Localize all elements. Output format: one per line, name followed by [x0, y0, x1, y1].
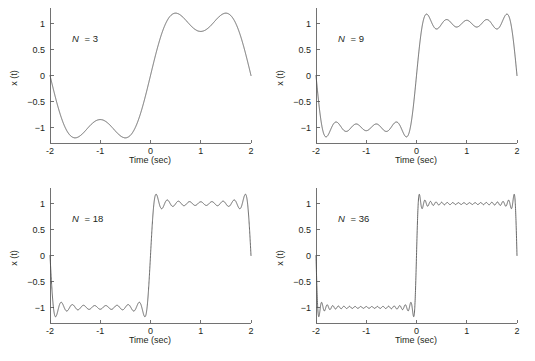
x-tick-label: 2	[248, 326, 253, 336]
y-axis-label-n9: x (t)	[275, 70, 285, 86]
x-tick-label: 1	[464, 146, 469, 156]
x-axis-label-n9: Time (sec)	[395, 155, 437, 165]
x-tick-label: 2	[514, 146, 519, 156]
x-tick-label: -1	[96, 146, 104, 156]
y-tick-label: 1	[306, 19, 311, 29]
plot-area-n3: -2-1012−1−0.500.51 Time (sec) x (t) N = …	[0, 0, 265, 180]
tick-labels-n3: -2-1012−1−0.500.51	[27, 19, 253, 156]
ticks-n3	[50, 24, 251, 143]
x-tick-label: 2	[248, 146, 253, 156]
annotation-symbol-n9: N	[338, 33, 345, 44]
y-axis-label-n3: x (t)	[9, 70, 19, 86]
plot-area-n9: -2-1012−1−0.500.51 Time (sec) x (t) N = …	[266, 0, 531, 180]
x-tick-label: -2	[312, 326, 320, 336]
annotation-value-n3: 3	[93, 33, 98, 44]
curve-group-n3	[50, 13, 251, 138]
y-tick-label: 1	[40, 199, 45, 209]
plot-panel-n18: -2-1012−1−0.500.51 Time (sec) x (t) N = …	[0, 180, 265, 360]
x-tick-label: -2	[46, 326, 54, 336]
annotation-symbol-n3: N	[72, 33, 79, 44]
tick-labels-n36: -2-1012−1−0.500.51	[293, 199, 519, 336]
y-tick-label: −0.5	[27, 97, 45, 107]
y-tick-label: 0	[306, 71, 311, 81]
annotation-value-n36: 36	[359, 213, 370, 224]
y-tick-label: 0.5	[298, 45, 311, 55]
y-axis-label-n18: x (t)	[9, 250, 19, 266]
curve-group-n18	[50, 194, 251, 317]
plot-panel-n3: -2-1012−1−0.500.51 Time (sec) x (t) N = …	[0, 0, 265, 180]
annotation-value-n18: 18	[93, 213, 104, 224]
plot-area-n18: -2-1012−1−0.500.51 Time (sec) x (t) N = …	[0, 180, 265, 360]
x-tick-label: -2	[46, 146, 54, 156]
y-axis-label-n36: x (t)	[275, 250, 285, 266]
curve-n36	[316, 194, 517, 316]
y-tick-label: −1	[35, 303, 45, 313]
y-tick-label: 1	[306, 199, 311, 209]
x-tick-label: 1	[198, 326, 203, 336]
y-tick-label: 0	[306, 251, 311, 261]
plot-panel-n36: -2-1012−1−0.500.51 Time (sec) x (t) N = …	[266, 180, 531, 360]
y-tick-label: 0.5	[298, 225, 311, 235]
y-tick-label: −0.5	[293, 277, 311, 287]
figure-gibbs-phenomenon: -2-1012−1−0.500.51 Time (sec) x (t) N = …	[0, 0, 535, 361]
annotation-n18: N = 18	[72, 213, 103, 224]
curve-group-n36	[316, 194, 517, 316]
x-tick-label: 1	[198, 146, 203, 156]
x-tick-label: 1	[464, 326, 469, 336]
x-axis-label-n18: Time (sec)	[129, 335, 171, 345]
y-tick-label: −0.5	[293, 97, 311, 107]
x-axis-label-n3: Time (sec)	[129, 155, 171, 165]
annotation-n36: N = 36	[338, 213, 369, 224]
x-tick-label: 2	[514, 326, 519, 336]
y-tick-label: 0.5	[32, 225, 45, 235]
y-tick-label: −0.5	[27, 277, 45, 287]
y-tick-label: 1	[40, 19, 45, 29]
ticks-n9	[316, 24, 517, 143]
curve-n18	[50, 194, 251, 317]
annotation-symbol-n18: N	[72, 213, 79, 224]
tick-labels-n9: -2-1012−1−0.500.51	[293, 19, 519, 156]
annotation-symbol-n36: N	[338, 213, 345, 224]
plot-area-n36: -2-1012−1−0.500.51 Time (sec) x (t) N = …	[266, 180, 531, 360]
y-tick-label: 0.5	[32, 45, 45, 55]
plot-panel-n9: -2-1012−1−0.500.51 Time (sec) x (t) N = …	[266, 0, 531, 180]
y-tick-label: −1	[301, 123, 311, 133]
curve-group-n9	[316, 14, 517, 137]
x-axis-label-n36: Time (sec)	[395, 335, 437, 345]
x-tick-label: -1	[362, 146, 370, 156]
annotation-value-n9: 9	[359, 33, 364, 44]
y-tick-label: 0	[40, 251, 45, 261]
y-tick-label: −1	[35, 123, 45, 133]
x-tick-label: -2	[312, 146, 320, 156]
x-tick-label: -1	[96, 326, 104, 336]
curve-n9	[316, 14, 517, 137]
y-tick-label: 0	[40, 71, 45, 81]
tick-labels-n18: -2-1012−1−0.500.51	[27, 199, 253, 336]
annotation-n9: N = 9	[338, 33, 364, 44]
x-tick-label: -1	[362, 326, 370, 336]
annotation-n3: N = 3	[72, 33, 98, 44]
curve-n3	[50, 13, 251, 138]
y-tick-label: −1	[301, 303, 311, 313]
